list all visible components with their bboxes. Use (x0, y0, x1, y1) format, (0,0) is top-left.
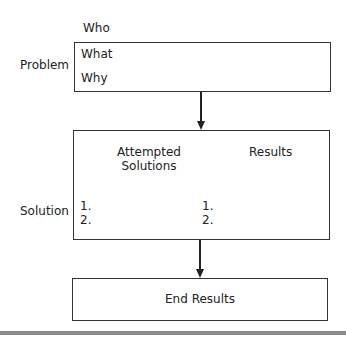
problem-item-who: Who (83, 21, 110, 35)
arrowhead-icon (196, 269, 204, 278)
bottom-rule (0, 331, 346, 335)
attempted-list-1: 1. (80, 199, 91, 213)
arrow-problem-to-solution (200, 92, 202, 122)
arrowhead-icon (197, 121, 205, 130)
problem-item-why: Why (81, 71, 108, 85)
results-list-2: 2. (202, 213, 213, 227)
header-line: Solutions (114, 159, 184, 173)
problem-box: What Why (74, 42, 331, 92)
attempted-list-2: 2. (80, 213, 91, 227)
attempted-solutions-header: Attempted Solutions (114, 145, 184, 173)
solution-box: Attempted Solutions Results 1. 2. 1. 2. (73, 130, 330, 240)
results-list-1: 1. (202, 199, 213, 213)
results-header: Results (249, 145, 292, 159)
arrow-solution-to-end (199, 240, 201, 270)
problem-item-what: What (81, 47, 113, 61)
solution-side-label: Solution (20, 204, 69, 218)
end-results-label: End Results (73, 292, 327, 306)
header-line: Attempted (114, 145, 184, 159)
end-results-box: End Results (72, 278, 328, 321)
problem-side-label: Problem (20, 58, 69, 72)
